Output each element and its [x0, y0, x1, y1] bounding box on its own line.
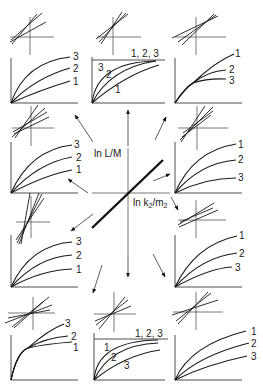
svg-text:2: 2 — [251, 338, 257, 349]
inset-mid-left — [12, 105, 54, 146]
svg-text:3: 3 — [73, 51, 79, 62]
arrow-up-left-icon — [75, 115, 93, 142]
inset-bottom-center — [94, 292, 136, 332]
panel-bottom-center: 1, 2, 3 1 2 3 — [94, 328, 168, 380]
svg-text:1: 1 — [239, 230, 245, 241]
arrow-right-icon — [153, 174, 170, 181]
svg-text:2: 2 — [71, 331, 77, 342]
inset-top-left — [10, 13, 54, 55]
x-axis-label: ln k2/m2 — [133, 197, 168, 209]
svg-text:1: 1 — [76, 164, 82, 175]
svg-text:1: 1 — [76, 264, 82, 275]
center-plot: ln L/M ln k2/m2 — [92, 148, 170, 255]
panel-top-center: 1, 2, 3 3 2 1 — [92, 48, 165, 103]
panel-mid-right: 1 2 3 — [175, 139, 244, 193]
svg-text:3: 3 — [76, 236, 82, 247]
panel-top-right: 1 2 3 — [175, 48, 242, 103]
arrow-right-lower-icon — [171, 197, 178, 210]
inset-mid-right — [178, 106, 228, 150]
svg-text:3: 3 — [98, 62, 104, 73]
panel-bottom-right: 1 2 3 — [175, 326, 257, 380]
svg-text:2: 2 — [238, 154, 244, 165]
y-axis-label: ln L/M — [94, 148, 121, 159]
svg-text:1: 1 — [73, 76, 79, 87]
svg-text:1, 2, 3: 1, 2, 3 — [135, 328, 163, 339]
arrow-left-icon — [68, 179, 88, 193]
diagram-figure: 3 2 1 1, 2, 3 3 2 1 1 2 — [0, 0, 263, 391]
panel-top-left: 3 2 1 — [11, 51, 79, 103]
svg-text:3: 3 — [229, 75, 235, 86]
svg-text:1, 2, 3: 1, 2, 3 — [131, 48, 159, 59]
svg-text:2: 2 — [76, 152, 82, 163]
svg-text:3: 3 — [235, 262, 241, 273]
svg-text:1: 1 — [238, 139, 244, 150]
svg-text:2: 2 — [111, 352, 117, 363]
inset-bottom-left — [5, 297, 55, 330]
panel-mid-left: 3 2 1 — [11, 139, 82, 193]
svg-text:3: 3 — [238, 172, 244, 183]
svg-text:3: 3 — [124, 360, 130, 371]
svg-text:1: 1 — [73, 342, 79, 353]
arrow-down-left-icon — [71, 214, 93, 231]
inset-bottom-right — [172, 292, 223, 330]
panel-lower-right: 1 2 3 — [175, 230, 245, 287]
svg-text:2: 2 — [76, 250, 82, 261]
svg-text:1: 1 — [104, 342, 110, 353]
svg-text:1: 1 — [235, 48, 241, 59]
svg-text:2: 2 — [239, 248, 245, 259]
inset-top-right — [172, 14, 226, 55]
svg-text:3: 3 — [74, 139, 80, 150]
svg-text:3: 3 — [251, 351, 257, 362]
inset-lower-left — [16, 193, 50, 244]
inset-lower-right — [178, 200, 226, 238]
panel-bottom-left: 3 2 1 — [11, 318, 79, 380]
svg-text:2: 2 — [229, 64, 235, 75]
svg-text:1: 1 — [115, 84, 121, 95]
svg-text:3: 3 — [65, 318, 71, 329]
arrow-down-right-icon — [153, 254, 165, 277]
svg-text:2: 2 — [73, 63, 79, 74]
svg-text:1: 1 — [251, 326, 257, 337]
svg-text:2: 2 — [106, 69, 112, 80]
arrow-up-right-icon — [155, 117, 166, 140]
arrow-down-left-lower-icon — [93, 265, 102, 293]
